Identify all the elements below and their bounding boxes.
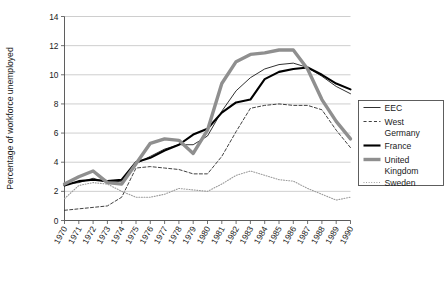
x-tick-label-1990: 1990 bbox=[337, 224, 355, 245]
legend-label-0: EEC bbox=[385, 103, 403, 113]
y-tick-label-0: 0 bbox=[54, 216, 59, 226]
legend-label-2: France bbox=[385, 141, 412, 151]
x-axis-ticks: 1970197119721973197419751976197719781979… bbox=[51, 221, 355, 246]
y-tick-label-2: 2 bbox=[54, 186, 59, 196]
chart-container: 0246810121419701971197219731974197519761… bbox=[0, 0, 444, 282]
legend-label-1-line2: Germany bbox=[385, 128, 421, 138]
y-tick-label-4: 4 bbox=[54, 157, 59, 167]
y-tick-label-10: 10 bbox=[49, 70, 59, 80]
y-tick-label-8: 8 bbox=[54, 99, 59, 109]
gridlines-group bbox=[65, 17, 351, 221]
series-line-sweden bbox=[65, 171, 351, 200]
series-line-west-germany bbox=[65, 104, 351, 210]
y-axis-ticks: 02468101214 bbox=[49, 12, 64, 226]
y-tick-label-6: 6 bbox=[54, 128, 59, 138]
series-group bbox=[65, 50, 351, 210]
legend-label-4: Sweden bbox=[385, 178, 416, 188]
legend-label-3: United bbox=[385, 155, 410, 165]
series-line-united-kingdom bbox=[65, 50, 351, 184]
y-tick-label-14: 14 bbox=[49, 12, 59, 22]
legend-label-3-line2: Kingdom bbox=[385, 166, 419, 176]
y-axis-title: Percentage of workforce unemployed bbox=[5, 47, 15, 190]
y-tick-label-12: 12 bbox=[49, 41, 59, 51]
unemployment-line-chart: 0246810121419701971197219731974197519761… bbox=[0, 0, 444, 282]
axes-group bbox=[65, 17, 351, 221]
series-line-eec bbox=[65, 63, 351, 184]
legend-label-1: West bbox=[385, 117, 405, 127]
legend: EECWestGermanyFranceUnitedKingdomSweden bbox=[359, 101, 444, 188]
